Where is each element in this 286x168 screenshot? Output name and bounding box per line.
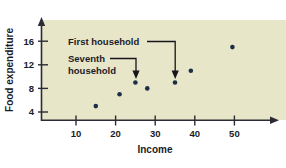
y-axis-arrowhead [38, 17, 45, 26]
data-point [145, 86, 150, 91]
data-point [94, 104, 99, 109]
x-tick-label-50: 50 [229, 128, 240, 139]
annotation-seventh-household-label-line1: Seventh [68, 53, 105, 64]
data-point-group [94, 45, 235, 109]
x-tick-label-20: 20 [110, 128, 121, 139]
x-axis [42, 117, 280, 124]
y-tick-label-16: 16 [23, 36, 34, 47]
y-axis [38, 17, 45, 121]
y-tick-marks [38, 41, 48, 112]
annotation-seventh-household-arrowhead [132, 71, 139, 80]
x-axis-arrowhead [270, 117, 279, 124]
data-point [117, 92, 122, 97]
y-axis-title: Food expenditure [4, 28, 15, 112]
scatter-plot-figure: 16 12 8 4 Food expenditure 10 20 30 40 5… [0, 0, 286, 168]
y-tick-label-8: 8 [29, 83, 34, 94]
annotation-first-household-arrowhead [172, 71, 179, 80]
x-tick-label-30: 30 [150, 128, 161, 139]
x-axis-title: Income [137, 144, 172, 155]
y-tick-label-4: 4 [29, 106, 35, 117]
x-tick-label-40: 40 [190, 128, 201, 139]
chart-canvas: 16 12 8 4 Food expenditure 10 20 30 40 5… [0, 0, 286, 168]
annotation-first-household-label: First household [68, 36, 139, 47]
data-point [173, 80, 178, 85]
x-tick-label-10: 10 [71, 128, 82, 139]
annotation-first-household-leader-line [147, 42, 175, 73]
data-point [189, 68, 194, 73]
data-point [133, 80, 138, 85]
annotation-seventh-household-label-line2: household [68, 65, 116, 76]
y-tick-label-12: 12 [23, 59, 34, 70]
data-point [230, 45, 235, 50]
annotation-seventh-household: Seventh household [68, 53, 140, 79]
